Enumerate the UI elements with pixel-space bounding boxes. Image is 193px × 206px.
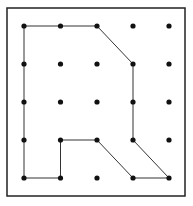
grid-dot: [130, 175, 135, 180]
grid-dot: [130, 61, 135, 66]
grid-dot: [94, 61, 99, 66]
grid-dot: [166, 175, 171, 180]
geoboard-diagram: [0, 0, 193, 206]
grid-dot: [21, 23, 26, 28]
grid-dot: [130, 99, 135, 104]
grid-dot: [21, 175, 26, 180]
grid-dot: [166, 99, 171, 104]
grid-dot: [94, 175, 99, 180]
grid-dot: [130, 23, 135, 28]
grid-dot: [166, 137, 171, 142]
grid-dot: [58, 61, 63, 66]
grid-dot: [130, 137, 135, 142]
grid-dot: [58, 175, 63, 180]
grid-dot: [58, 137, 63, 142]
grid-dot: [94, 23, 99, 28]
grid-dot: [21, 99, 26, 104]
grid-dot: [94, 137, 99, 142]
grid-dot: [58, 99, 63, 104]
grid-dot: [21, 61, 26, 66]
grid-dot: [166, 23, 171, 28]
grid-dot: [58, 23, 63, 28]
grid-dot: [166, 61, 171, 66]
grid-dot: [21, 137, 26, 142]
grid-dot: [94, 99, 99, 104]
